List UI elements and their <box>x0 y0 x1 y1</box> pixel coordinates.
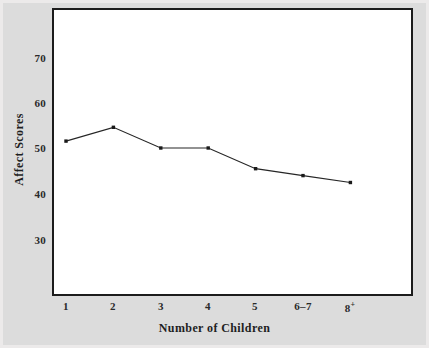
data-markers <box>64 126 352 185</box>
data-point-6–7 <box>301 174 304 177</box>
data-point-5 <box>254 167 257 170</box>
data-point-1 <box>64 139 67 142</box>
data-point-2 <box>112 126 115 129</box>
data-point-4 <box>207 146 210 149</box>
data-point-3 <box>159 146 162 149</box>
chart-figure: 70 60 50 40 30 Affect Scores 1 2 3 4 5 6… <box>0 0 429 348</box>
data-point-8⁺ <box>349 181 352 184</box>
data-series-canvas <box>0 0 429 348</box>
data-line <box>66 127 350 182</box>
